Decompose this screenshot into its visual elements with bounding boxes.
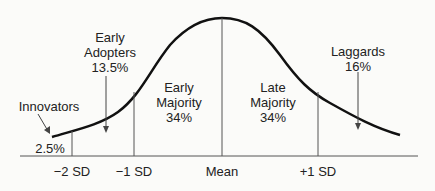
- arrow-head-icon: [355, 123, 361, 130]
- late-majority-line2: Majority: [240, 95, 306, 110]
- axis-label-minus-2sd: −2 SD: [42, 164, 102, 179]
- laggards-percent: 16%: [325, 59, 391, 74]
- laggards-label: Laggards 16%: [325, 44, 391, 74]
- early-adopters-percent: 13.5%: [70, 60, 150, 75]
- axis-label-minus-1sd: −1 SD: [104, 164, 164, 179]
- early-majority-percent: 34%: [146, 110, 212, 125]
- early-adopters-label: Early Adopters 13.5%: [70, 30, 150, 75]
- innovators-percent: 2.5%: [30, 141, 70, 156]
- arrow-head-icon: [44, 126, 50, 134]
- early-majority-line2: Majority: [146, 95, 212, 110]
- late-majority-label: Late Majority 34%: [240, 80, 306, 125]
- axis-label-mean: Mean: [192, 164, 252, 179]
- innovators-name: Innovators: [19, 99, 80, 114]
- late-majority-percent: 34%: [240, 110, 306, 125]
- early-majority-line1: Early: [146, 80, 212, 95]
- early-majority-label: Early Majority 34%: [146, 80, 212, 125]
- arrow-head-icon: [103, 126, 109, 133]
- innovators-label: Innovators: [14, 99, 84, 114]
- early-adopters-line2: Adopters: [70, 45, 150, 60]
- axis-label-plus-1sd: +1 SD: [288, 164, 348, 179]
- innovators-percent-value: 2.5%: [35, 141, 65, 156]
- bell-curve-diagram: [0, 0, 435, 191]
- laggards-name: Laggards: [325, 44, 391, 59]
- late-majority-line1: Late: [240, 80, 306, 95]
- early-adopters-line1: Early: [70, 30, 150, 45]
